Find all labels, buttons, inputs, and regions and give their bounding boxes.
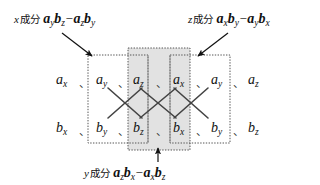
- separator-b-3: 、: [156, 126, 167, 137]
- term-a-4-sub: x: [180, 79, 184, 89]
- figure-canvas: x成分 aybz−azby z成分 axby−aybx y成分 azbx−axb…: [0, 0, 320, 185]
- term-a-5-symbol: a: [211, 72, 218, 87]
- term-b-4: bx: [173, 121, 184, 138]
- z-component-arrow: [198, 33, 228, 56]
- caption-y-component: y成分 azbx−axbz: [84, 166, 165, 183]
- term-a-2-sub: y: [103, 79, 107, 89]
- term-a-3: az: [133, 73, 144, 90]
- caption-z-term2-b: b: [259, 11, 266, 26]
- term-a-5: ay: [211, 73, 222, 90]
- term-a-2: ay: [96, 73, 107, 90]
- term-b-5-sub: y: [218, 127, 222, 137]
- caption-y-term1-b: b: [124, 165, 131, 180]
- caption-x-term2-bsub: y: [91, 18, 95, 28]
- term-b-3-sub: z: [140, 127, 144, 137]
- caption-z-term1-b: b: [228, 11, 235, 26]
- term-b-6-sub: z: [255, 127, 259, 137]
- term-a-2-symbol: a: [96, 72, 103, 87]
- term-b-5: by: [211, 121, 222, 138]
- caption-x-kanji: 成分: [20, 13, 40, 25]
- caption-x-component: x成分 aybz−azby: [14, 12, 95, 29]
- term-b-3-symbol: b: [133, 120, 140, 135]
- separator-b-4: 、: [196, 126, 207, 137]
- term-a-4: ax: [173, 73, 184, 90]
- term-b-1-symbol: b: [56, 120, 63, 135]
- separator-b-5: 、: [233, 126, 244, 137]
- caption-y-term2-b: b: [155, 165, 162, 180]
- term-b-2: by: [96, 121, 107, 138]
- term-b-4-symbol: b: [173, 120, 180, 135]
- caption-z-term2-bsub: x: [266, 18, 270, 28]
- caption-y-kanji: 成分: [90, 167, 110, 179]
- term-a-3-sub: z: [140, 79, 144, 89]
- separator-a-1: 、: [79, 78, 90, 89]
- caption-y-term2-bsub: z: [162, 172, 166, 182]
- separator-a-2: 、: [118, 78, 129, 89]
- term-a-1-symbol: a: [56, 72, 63, 87]
- term-a-1: ax: [56, 73, 67, 90]
- term-b-3: bz: [133, 121, 144, 138]
- term-a-6: az: [248, 73, 259, 90]
- term-a-6-symbol: a: [248, 72, 255, 87]
- term-a-4-symbol: a: [173, 72, 180, 87]
- caption-z-component: z成分 axby−aybx: [188, 12, 270, 29]
- term-b-2-sub: y: [103, 127, 107, 137]
- term-a-1-sub: x: [63, 79, 67, 89]
- separator-a-4: 、: [196, 78, 207, 89]
- term-b-1: bx: [56, 121, 67, 138]
- term-b-2-symbol: b: [96, 120, 103, 135]
- separator-a-5: 、: [233, 78, 244, 89]
- term-b-6: bz: [248, 121, 259, 138]
- term-b-1-sub: x: [63, 127, 67, 137]
- separator-b-2: 、: [118, 126, 129, 137]
- caption-z-kanji: 成分: [193, 13, 213, 25]
- term-a-5-sub: y: [218, 79, 222, 89]
- term-a-6-sub: z: [255, 79, 259, 89]
- separator-b-1: 、: [79, 126, 90, 137]
- separator-a-3: 、: [156, 78, 167, 89]
- term-b-5-symbol: b: [211, 120, 218, 135]
- term-a-3-symbol: a: [133, 72, 140, 87]
- term-b-6-symbol: b: [248, 120, 255, 135]
- caption-z-term1-a: a: [217, 11, 224, 26]
- x-component-arrow: [62, 33, 92, 56]
- term-b-4-sub: x: [180, 127, 184, 137]
